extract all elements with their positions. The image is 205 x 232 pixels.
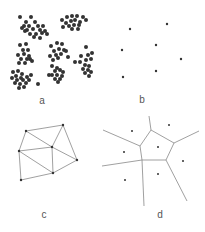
point [56,80,60,84]
point [21,48,25,52]
point [55,73,59,77]
site-point [180,58,182,60]
site-point [129,28,131,30]
site-point [182,160,184,162]
point [64,49,68,53]
point [17,86,21,90]
panel-d-label: d [157,209,163,220]
vertex [18,150,20,152]
site-point [157,173,159,175]
triangulation-edge [63,125,77,160]
point [13,81,17,85]
point [40,31,44,35]
point [81,15,85,19]
point [53,77,57,81]
vertex [62,124,64,126]
point [20,26,24,30]
site-point [124,179,126,181]
point [32,35,36,39]
point [14,74,18,78]
triangulation-edge [52,147,53,173]
point [23,29,27,33]
point [10,76,14,80]
point [41,24,45,28]
voronoi-edge [166,160,187,201]
point [59,52,63,56]
voronoi-edge [142,160,144,206]
triangulation-edge [19,131,26,151]
point [89,57,93,61]
point [18,15,22,19]
site-point [123,151,125,153]
point [70,27,74,31]
point [17,61,21,65]
voronoi-edge [140,130,151,146]
voronoi-edge [102,160,142,166]
point [69,19,73,23]
site-point [168,124,170,126]
voronoi-edge [103,130,140,146]
triangulation-edge [52,125,63,147]
point [27,24,31,28]
point [24,42,28,46]
site-point [131,130,133,132]
point [84,45,88,49]
point [87,74,91,78]
point [24,20,28,24]
point [22,85,26,89]
point [23,61,27,65]
site-point [121,49,123,51]
triangulation-edge [52,147,77,160]
panel-b-site-points [121,23,182,78]
point [26,48,30,52]
vertex [20,179,22,181]
triangulation-edge [26,125,63,131]
point [86,53,90,57]
point [28,57,32,61]
point [56,56,60,60]
panel-d-voronoi-diagram [102,116,199,206]
point [83,63,87,67]
point [19,57,23,61]
site-point [122,76,124,78]
point [87,64,91,68]
point [65,15,69,19]
point [84,58,88,62]
point [29,15,33,19]
point [27,78,31,82]
triangulation-edge [53,160,77,173]
point [60,42,64,46]
point [21,78,25,82]
panel-c-delaunay-triangulation [18,124,78,181]
point [60,18,64,22]
point [45,32,49,36]
point [57,47,61,51]
point [70,14,74,18]
point [48,54,52,58]
point [38,36,42,40]
site-point [166,23,168,25]
point [76,27,80,31]
point [61,25,65,29]
point [79,54,83,58]
point [75,14,79,18]
point [77,23,81,27]
point [28,32,32,36]
triangulation-edge [21,173,53,180]
voronoi-edge [149,116,151,130]
point [29,73,33,77]
point [49,44,53,48]
point [36,82,40,86]
voronoi-edge [140,146,142,160]
point [16,69,20,73]
point [22,52,26,56]
panel-b-label: b [139,94,145,105]
point [53,69,57,73]
site-point [155,70,157,72]
point [20,72,24,76]
site-point [155,44,157,46]
site-point [157,146,159,148]
point [47,73,51,77]
point [50,64,54,68]
vertex [51,146,53,148]
